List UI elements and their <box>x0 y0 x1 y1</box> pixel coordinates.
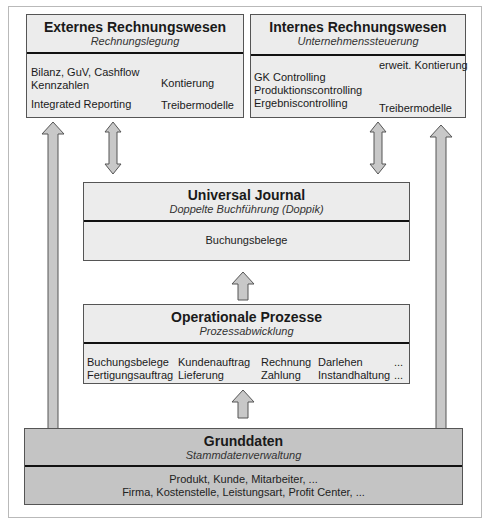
prozesse-subtitle: Prozessabwicklung <box>84 325 409 338</box>
double-arrow-left-icon <box>105 122 121 174</box>
extern-target: Treibermodelle <box>161 99 234 112</box>
prozess-item: Kundenauftrag <box>178 356 250 369</box>
grunddaten-header: Grunddaten Stammdatenverwaltung <box>25 429 462 467</box>
prozess-item: ... <box>394 356 403 369</box>
intern-target: erweit. Kontierung <box>379 59 468 72</box>
up-arrow-prozesse-to-journal-icon <box>232 272 254 300</box>
prozess-item: Rechnung <box>261 356 311 369</box>
intern-title: Internes Rechnungswesen <box>251 19 465 35</box>
prozess-item: Fertigungsauftrag <box>87 369 173 382</box>
double-arrow-right-icon <box>370 122 386 174</box>
extern-item: Integrated Reporting <box>31 98 131 111</box>
prozess-item: Zahlung <box>261 369 301 382</box>
extern-title: Externes Rechnungswesen <box>27 19 243 35</box>
intern-target: Treibermodelle <box>379 102 452 115</box>
extern-subtitle: Rechnungslegung <box>27 35 243 48</box>
extern-item: Bilanz, GuV, Cashflow <box>31 66 139 79</box>
journal-header: Universal Journal Doppelte Buchführung (… <box>84 183 409 222</box>
grunddaten-line: Produkt, Kunde, Mitarbeiter, ... <box>25 473 462 486</box>
intern-item: GK Controlling <box>254 71 326 84</box>
prozess-item: ... <box>394 369 403 382</box>
prozess-item: Lieferung <box>178 369 224 382</box>
extern-item: Kennzahlen <box>31 79 89 92</box>
intern-item: Produktionscontrolling <box>254 84 362 97</box>
journal-subtitle: Doppelte Buchführung (Doppik) <box>84 203 409 216</box>
journal-box: Universal Journal Doppelte Buchführung (… <box>83 182 410 261</box>
up-arrow-right-tall-icon <box>430 125 452 440</box>
intern-subtitle: Unternehmenssteuerung <box>251 35 465 48</box>
journal-title: Universal Journal <box>84 187 409 203</box>
extern-header: Externes Rechnungswesen Rechnungslegung <box>27 15 243 54</box>
journal-body: Buchungsbelege <box>84 222 409 260</box>
grunddaten-title: Grunddaten <box>25 433 462 449</box>
prozess-item: Buchungsbelege <box>87 356 169 369</box>
grunddaten-line: Firma, Kostenstelle, Leistungsart, Profi… <box>25 486 462 499</box>
grunddaten-subtitle: Stammdatenverwaltung <box>25 449 462 462</box>
up-arrow-left-tall-icon <box>42 122 64 438</box>
extern-target: Kontierung <box>161 77 214 90</box>
grunddaten-box: Grunddaten Stammdatenverwaltung Produkt,… <box>24 428 463 505</box>
intern-item: Ergebniscontrolling <box>254 97 348 110</box>
prozess-item: Darlehen <box>318 356 363 369</box>
grunddaten-body: Produkt, Kunde, Mitarbeiter, ... Firma, … <box>25 469 462 504</box>
prozesse-header: Operationale Prozesse Prozessabwicklung <box>84 305 409 344</box>
prozess-item: Instandhaltung <box>318 369 390 382</box>
up-arrow-grunddaten-to-prozesse-icon <box>232 390 254 418</box>
intern-header: Internes Rechnungswesen Unternehmenssteu… <box>251 15 465 56</box>
prozesse-title: Operationale Prozesse <box>84 309 409 325</box>
journal-body-text: Buchungsbelege <box>206 234 288 246</box>
